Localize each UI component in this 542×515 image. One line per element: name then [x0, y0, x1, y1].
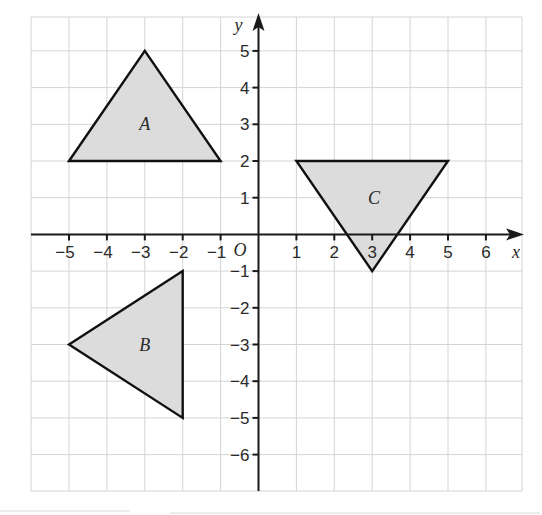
shape-label-a: A — [138, 114, 151, 134]
x-tick-label: 4 — [405, 243, 414, 262]
x-tick-label: −1 — [207, 243, 226, 262]
y-tick-label: −5 — [230, 409, 249, 428]
x-tick-label: −3 — [131, 243, 150, 262]
y-tick-label: −3 — [230, 336, 249, 355]
y-tick-label: −6 — [230, 446, 249, 465]
x-axis-label: x — [511, 242, 520, 262]
x-tick-label: 3 — [367, 243, 376, 262]
triangle-b — [69, 271, 183, 418]
y-tick-label: −2 — [230, 299, 249, 318]
y-tick-label: −1 — [230, 262, 249, 281]
y-tick-label: 5 — [240, 42, 249, 61]
y-tick-label: 4 — [240, 79, 249, 98]
page-edge-smudges — [0, 511, 540, 513]
coordinate-grid-diagram: −5−4−3−2−112345654321−1−2−3−4−5−6 x y O … — [0, 0, 542, 515]
y-axis-label: y — [233, 15, 243, 35]
y-tick-label: 1 — [240, 189, 249, 208]
x-tick-label: 5 — [443, 243, 452, 262]
x-tick-label: 1 — [292, 243, 301, 262]
axes: −5−4−3−2−112345654321−1−2−3−4−5−6 — [31, 13, 524, 491]
x-tick-label: 6 — [481, 243, 490, 262]
x-tick-label: −4 — [93, 243, 112, 262]
x-tick-label: 2 — [330, 243, 339, 262]
shape-label-b: B — [139, 335, 150, 355]
y-tick-label: 2 — [240, 152, 249, 171]
triangle-a — [69, 51, 221, 161]
origin-label: O — [234, 240, 247, 260]
x-tick-label: −5 — [55, 243, 74, 262]
x-tick-label: −2 — [169, 243, 188, 262]
y-tick-label: −4 — [230, 372, 249, 391]
y-tick-label: 3 — [240, 115, 249, 134]
shape-label-c: C — [368, 188, 381, 208]
